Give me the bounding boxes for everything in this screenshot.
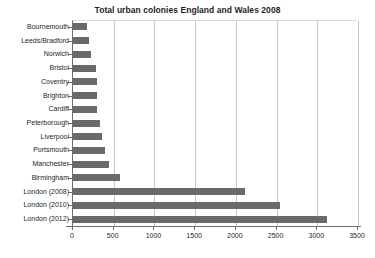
bar [72, 202, 280, 209]
category-label: Norwich [44, 50, 69, 58]
category-label: Birmingham [32, 174, 69, 182]
category-label: London (2010) [23, 201, 69, 209]
bar [72, 216, 327, 223]
x-tick-label: 2500 [256, 232, 296, 239]
chart-figure: Total urban colonies England and Wales 2… [0, 0, 375, 258]
bar [72, 51, 91, 58]
x-tick-mark [357, 226, 358, 230]
bar [72, 120, 100, 127]
category-label: Bristol [50, 64, 69, 72]
gridline [195, 21, 196, 227]
x-tick-mark [153, 226, 154, 230]
bar [72, 78, 97, 85]
x-tick-label: 3000 [296, 232, 336, 239]
gridline [317, 21, 318, 227]
bar [72, 92, 97, 99]
gridline [236, 21, 237, 227]
x-tick-label: 1000 [133, 232, 173, 239]
x-tick-label: 1500 [174, 232, 214, 239]
x-tick-label: 500 [93, 232, 133, 239]
category-label: Liverpool [41, 133, 69, 141]
bar [72, 106, 97, 113]
x-tick-label: 0 [52, 232, 92, 239]
x-tick-mark [72, 226, 73, 230]
category-label: London (2008) [23, 188, 69, 196]
category-label: Bournemouth [27, 23, 69, 31]
bar [72, 161, 109, 168]
gridline [114, 21, 115, 227]
x-tick-mark [113, 226, 114, 230]
bar [72, 37, 89, 44]
gridline [358, 21, 359, 227]
category-label: London (2012) [23, 215, 69, 223]
category-label: Cardiff [49, 105, 70, 113]
category-label: Peterborough [27, 119, 69, 127]
x-tick-mark [276, 226, 277, 230]
bar [72, 174, 120, 181]
bar [72, 23, 87, 30]
category-label: Leeds/Bradford [21, 37, 69, 45]
bar [72, 65, 96, 72]
x-tick-label: 2000 [215, 232, 255, 239]
bar [72, 147, 105, 154]
x-tick-mark [194, 226, 195, 230]
bar [72, 133, 102, 140]
category-label: Portsmouth [33, 146, 69, 154]
chart-title: Total urban colonies England and Wales 2… [0, 5, 375, 15]
gridline [277, 21, 278, 227]
gridline [154, 21, 155, 227]
x-tick-mark [316, 226, 317, 230]
category-label: Brighton [43, 92, 69, 100]
bar [72, 188, 245, 195]
x-tick-mark [235, 226, 236, 230]
x-tick-label: 3500 [337, 232, 375, 239]
category-label: Manchester [32, 160, 69, 168]
category-label: Coventry [41, 78, 69, 86]
